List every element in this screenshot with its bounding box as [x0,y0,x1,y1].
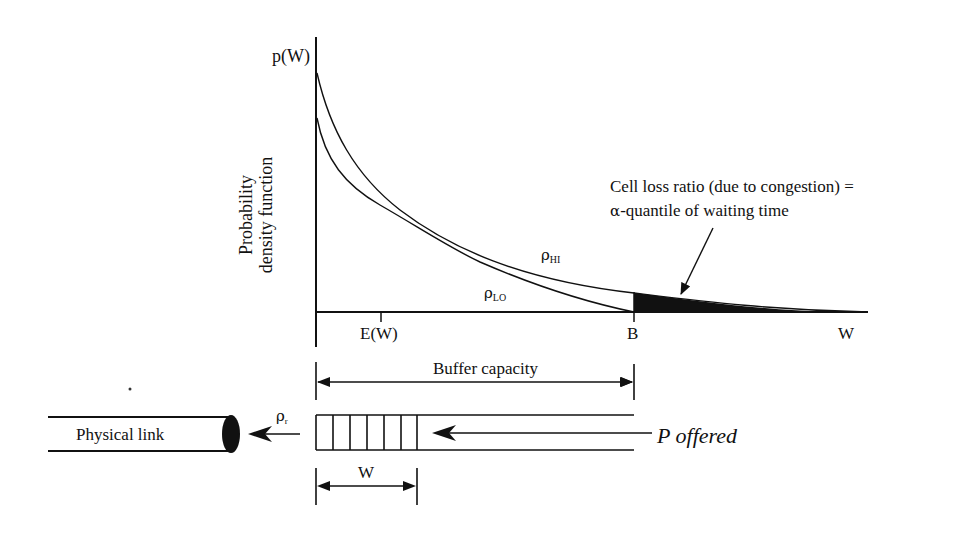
buffer-capacity-label: Buffer capacity [433,360,538,377]
rho-lo-symbol: ρ [484,284,493,302]
curve-rho-lo [317,118,634,312]
rho-hi-symbol: ρ [541,246,550,264]
w-arrowhead-right [403,481,416,491]
annotation-line2-text: -quantile of waiting time [620,201,789,220]
w-arrowhead-left [317,481,330,491]
arrowhead-left [317,377,330,387]
service-rate-symbol: ρ [276,407,285,425]
annotation-arrow [681,228,713,294]
y-axis-label-line2: density function [256,157,276,273]
offered-load-label: P offered [657,425,737,447]
diagram-canvas [0,0,958,533]
y-axis-symbol: p(W) [272,47,310,65]
mean-tick-label: E(W) [360,325,398,342]
y-axis-label: Probability density function [236,157,276,273]
label-rho-hi: ρHI [541,246,560,263]
y-axis-label-line1: Probability [236,157,256,273]
annotation-line2: α-quantile of waiting time [610,202,789,219]
rho-lo-subscript: LO [493,292,506,303]
stray-dot [129,388,132,391]
rho-hi-subscript: HI [550,254,561,265]
waiting-label: W [358,464,374,481]
buffer-cells [333,415,417,450]
link-end-cap [222,415,240,453]
label-rho-lo: ρLO [484,284,506,301]
arrowhead-right [620,377,633,387]
physical-link-label: Physical link [76,426,164,443]
alpha-symbol: α [610,202,620,220]
buffer-tick-label: B [627,325,638,342]
service-rate-label: ρr [276,407,288,424]
x-axis-symbol: W [838,325,854,342]
annotation-line1: Cell loss ratio (due to congestion) = [610,178,854,195]
service-rate-subscript: r [285,416,288,426]
